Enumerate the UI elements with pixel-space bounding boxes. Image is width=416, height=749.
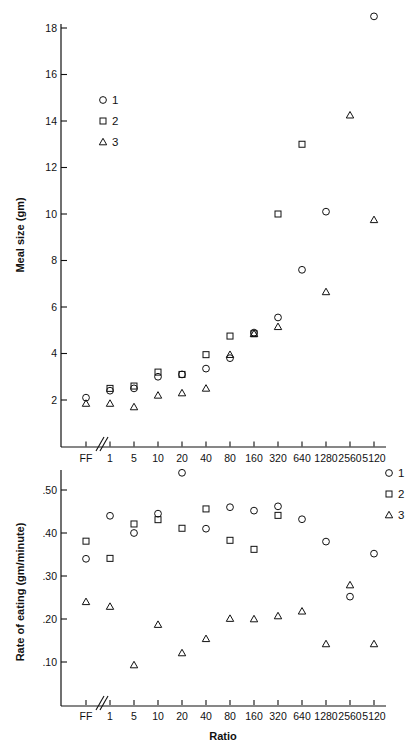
data-point-series-1: [107, 387, 114, 394]
y-tick-label: .30: [42, 570, 57, 582]
x-tick-label: 80: [224, 452, 236, 464]
x-tick-label: 160: [245, 452, 263, 464]
meal-size-y-axis-title: Meal size (gm): [14, 197, 26, 273]
data-point-series-3: [226, 615, 233, 622]
data-point-series-3: [82, 598, 89, 605]
meal-size-y-axis: 24681012141618: [45, 22, 67, 447]
x-tick-label: 10: [152, 452, 164, 464]
panel-rate-of-eating: .10.20.30.40.50 FF1510204080160320640128…: [14, 467, 404, 742]
data-point-series-1: [227, 504, 234, 511]
y-tick-label: 8: [51, 254, 57, 266]
x-tick-label: 160: [245, 710, 263, 722]
x-tick-label: 40: [200, 710, 212, 722]
data-point-series-1: [347, 593, 354, 600]
data-point-series-3: [202, 635, 209, 642]
data-point-series-2: [131, 521, 137, 527]
meal-size-x-ticks: FF1510204080160320640128025605120: [80, 442, 386, 464]
legend-marker-2: [100, 118, 106, 124]
data-point-series-1: [323, 208, 330, 215]
data-point-series-2: [179, 525, 185, 531]
data-point-series-2: [275, 211, 281, 217]
x-tick-label: 2560: [338, 452, 362, 464]
data-point-series-1: [155, 510, 162, 517]
data-point-series-1: [155, 373, 162, 380]
data-point-series-2: [299, 141, 305, 147]
rate-legend: 123: [385, 467, 404, 521]
y-tick-label: 14: [45, 115, 57, 127]
data-point-series-2: [227, 333, 233, 339]
data-point-series-3: [322, 288, 329, 295]
data-point-series-3: [298, 608, 305, 615]
x-tick-label: 640: [293, 710, 311, 722]
data-point-series-3: [178, 649, 185, 656]
y-tick-label: .40: [42, 527, 57, 539]
data-point-series-3: [178, 389, 185, 396]
data-point-series-1: [131, 530, 138, 537]
x-tick-label: 1280: [314, 452, 338, 464]
data-point-series-2: [107, 555, 113, 561]
data-point-series-3: [106, 603, 113, 610]
data-point-series-2: [275, 512, 281, 518]
data-point-series-1: [251, 507, 258, 514]
axis-break-icon: [96, 437, 108, 451]
figure-x-axis-title: Ratio: [209, 730, 237, 742]
data-point-series-1: [203, 525, 210, 532]
meal-size-data-points: [82, 13, 377, 410]
data-point-series-1: [83, 555, 90, 562]
data-point-series-3: [370, 216, 377, 223]
data-point-series-2: [227, 537, 233, 543]
panel-meal-size: 24681012141618 FF15102040801603206401280…: [14, 13, 386, 464]
x-tick-label: 1: [107, 452, 113, 464]
x-tick-label: 640: [293, 452, 311, 464]
y-tick-label: 6: [51, 301, 57, 313]
rate-x-ticks: FF1510204080160320640128025605120: [80, 700, 386, 722]
data-point-series-2: [251, 546, 257, 552]
legend-label-2: 2: [398, 488, 404, 500]
x-tick-label: 1: [107, 710, 113, 722]
x-tick-label: 20: [176, 710, 188, 722]
x-tick-label: 5120: [362, 710, 386, 722]
legend-marker-2: [386, 491, 392, 497]
rate-x-axis: FF1510204080160320640128025605120: [61, 696, 386, 722]
data-point-series-3: [346, 111, 353, 118]
x-tick-label: 20: [176, 452, 188, 464]
data-point-series-1: [299, 266, 306, 273]
x-tick-label: 5: [131, 710, 137, 722]
data-point-series-2: [203, 352, 209, 358]
meal-size-x-axis: FF1510204080160320640128025605120: [61, 437, 386, 464]
data-point-series-1: [371, 550, 378, 557]
x-tick-label: 80: [224, 710, 236, 722]
data-point-series-3: [346, 581, 353, 588]
x-tick-label: 10: [152, 710, 164, 722]
y-tick-label: .20: [42, 613, 57, 625]
data-point-series-1: [203, 365, 210, 372]
figure-container: 24681012141618 FF15102040801603206401280…: [0, 0, 416, 749]
data-point-series-2: [83, 538, 89, 544]
data-point-series-1: [179, 371, 186, 378]
data-point-series-1: [275, 503, 282, 510]
legend-label-2: 2: [112, 115, 118, 127]
axis-break-icon: [96, 696, 108, 710]
rate-y-axis: .10.20.30.40.50: [42, 470, 67, 706]
data-point-series-3: [226, 351, 233, 358]
y-tick-label: 4: [51, 347, 57, 359]
data-point-series-1: [275, 314, 282, 321]
data-point-series-1: [371, 13, 378, 20]
data-point-series-3: [154, 392, 161, 399]
rate-data-points: [82, 469, 377, 667]
y-tick-label: 12: [45, 161, 57, 173]
data-point-series-3: [370, 640, 377, 647]
x-tick-label: 1280: [314, 710, 338, 722]
data-point-series-2: [203, 506, 209, 512]
x-tick-label: 2560: [338, 710, 362, 722]
data-point-series-3: [202, 385, 209, 392]
data-point-series-1: [179, 469, 186, 476]
data-point-series-3: [274, 323, 281, 330]
y-tick-label: 18: [45, 22, 57, 34]
legend-label-1: 1: [112, 94, 118, 106]
meal-size-y-ticks: 24681012141618: [45, 22, 67, 406]
y-tick-label: .50: [42, 484, 57, 496]
x-tick-label: FF: [80, 710, 93, 722]
x-tick-label: 320: [269, 452, 287, 464]
data-point-series-3: [130, 661, 137, 668]
